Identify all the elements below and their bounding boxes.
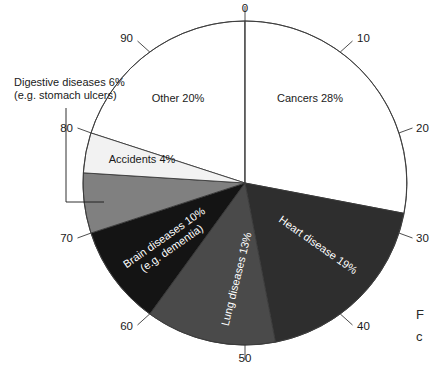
slice-label-accidents: Accidents 4% [109,153,176,165]
tick-label-40: 40 [357,320,370,332]
tick-line-90 [138,41,150,52]
edge-clipped-line-2: c [416,326,430,348]
pie-chart: 0 10 20 30 40 50 60 70 80 90 Other 20% C… [0,0,430,365]
tick-label-50: 50 [239,352,252,364]
callout-label-digestive-diseases-sub: (e.g. stomach ulcers) [14,89,117,101]
tick-label-0: 0 [242,2,248,14]
tick-label-20: 20 [416,122,429,134]
slice-label-other: Other 20% [152,92,205,104]
tick-label-30: 30 [416,232,429,244]
pie-slice-cancers[interactable] [245,21,407,213]
tick-line-70 [78,233,91,238]
tick-line-80 [78,128,91,133]
slice-label-cancers: Cancers 28% [277,92,343,104]
tick-line-30 [399,233,412,238]
tick-line-10 [340,41,352,52]
edge-clipped-line-1: F [416,304,430,326]
tick-label-70: 70 [60,232,73,244]
tick-line-60 [138,314,150,325]
chart-stage: 0 10 20 30 40 50 60 70 80 90 Other 20% C… [0,0,430,365]
tick-label-10: 10 [357,32,370,44]
tick-line-20 [399,128,412,133]
tick-label-60: 60 [120,320,133,332]
tick-line-40 [340,314,352,325]
callout-label-digestive-diseases: Digestive diseases 6% [14,76,125,88]
tick-label-90: 90 [120,32,133,44]
page-edge-clipped-text: F c [416,304,430,356]
tick-label-80: 80 [60,122,73,134]
